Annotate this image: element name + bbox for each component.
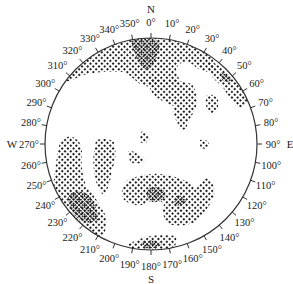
azimuth-tick bbox=[47, 180, 52, 182]
azimuth-label: 180° bbox=[141, 261, 161, 272]
density-region-center-spot-2 bbox=[128, 150, 146, 164]
azimuth-label: 10° bbox=[165, 18, 180, 29]
azimuth-label: 80° bbox=[264, 117, 279, 128]
azimuth-tick bbox=[251, 106, 256, 108]
azimuth-tick bbox=[42, 125, 47, 126]
azimuth-tick bbox=[80, 225, 83, 229]
azimuth-label: 70° bbox=[258, 97, 273, 108]
azimuth-label: 350° bbox=[120, 18, 140, 29]
azimuth-label: 250° bbox=[26, 180, 46, 191]
cardinal-s: S bbox=[148, 273, 154, 284]
azimuth-label: 40° bbox=[222, 45, 237, 56]
azimuth-tick bbox=[113, 244, 115, 249]
density-region-east-spot bbox=[200, 140, 210, 149]
azimuth-tick bbox=[66, 73, 70, 76]
azimuth-tick bbox=[55, 197, 59, 200]
azimuth-tick bbox=[55, 89, 59, 92]
azimuth-label: 160° bbox=[183, 253, 203, 264]
azimuth-label: 320° bbox=[63, 45, 83, 56]
azimuth-tick bbox=[96, 236, 99, 240]
azimuth-label: 120° bbox=[247, 200, 267, 211]
azimuth-label: 210° bbox=[80, 244, 100, 255]
azimuth-tick bbox=[255, 162, 260, 163]
azimuth-tick bbox=[169, 248, 170, 253]
density-region-central-lobe bbox=[149, 76, 198, 130]
azimuth-label: 140° bbox=[219, 232, 239, 243]
azimuth-tick bbox=[132, 35, 133, 40]
density-region-center-spot-1 bbox=[140, 132, 150, 144]
azimuth-tick bbox=[47, 106, 52, 108]
azimuth-tick bbox=[66, 212, 70, 215]
azimuth-label: 240° bbox=[35, 200, 55, 211]
cardinal-w: W bbox=[7, 138, 18, 150]
azimuth-label: 200° bbox=[99, 253, 119, 264]
azimuth-label: 230° bbox=[48, 217, 68, 228]
azimuth-label: 60° bbox=[249, 78, 264, 89]
cardinal-e: E bbox=[287, 138, 293, 150]
azimuth-label: 130° bbox=[234, 217, 254, 228]
density-regions bbox=[52, 35, 248, 252]
azimuth-tick bbox=[42, 162, 47, 163]
azimuth-tick bbox=[219, 225, 222, 229]
azimuth-label: 290° bbox=[26, 97, 46, 108]
azimuth-label: 220° bbox=[63, 232, 83, 243]
azimuth-label: 260° bbox=[21, 160, 41, 171]
density-region-south-central bbox=[122, 174, 215, 226]
azimuth-tick bbox=[232, 212, 236, 215]
azimuth-label: 20° bbox=[185, 24, 200, 35]
azimuth-tick bbox=[251, 180, 256, 182]
density-region-ne-patch bbox=[206, 95, 219, 114]
azimuth-label: 170° bbox=[162, 259, 182, 270]
azimuth-tick bbox=[187, 40, 189, 45]
azimuth-label: 300° bbox=[35, 78, 55, 89]
azimuth-tick bbox=[80, 59, 83, 63]
azimuth-tick bbox=[132, 248, 133, 253]
azimuth-tick bbox=[255, 125, 260, 126]
azimuth-label: 50° bbox=[237, 60, 252, 71]
azimuth-label: 330° bbox=[80, 33, 100, 44]
azimuth-label: 190° bbox=[120, 259, 140, 270]
azimuth-tick bbox=[219, 59, 222, 63]
azimuth-tick bbox=[113, 40, 115, 45]
azimuth-tick bbox=[96, 48, 99, 52]
azimuth-label: 30° bbox=[205, 33, 220, 44]
azimuth-tick bbox=[187, 244, 189, 249]
azimuth-label: 310° bbox=[48, 60, 68, 71]
density-region-midwest-column bbox=[93, 138, 115, 196]
azimuth-label: 280° bbox=[21, 117, 41, 128]
stereonet-diagram: 0°10°20°30°40°50°60°70°80°90°100°110°120… bbox=[0, 0, 293, 284]
cardinal-n: N bbox=[147, 3, 155, 15]
azimuth-tick bbox=[204, 48, 207, 52]
azimuth-label: 100° bbox=[261, 160, 281, 171]
azimuth-label: 110° bbox=[256, 180, 276, 191]
azimuth-tick bbox=[204, 236, 207, 240]
azimuth-label: 150° bbox=[202, 244, 222, 255]
azimuth-label: 340° bbox=[99, 24, 119, 35]
azimuth-tick bbox=[232, 73, 236, 76]
azimuth-label: 270° bbox=[19, 139, 39, 150]
azimuth-tick bbox=[169, 35, 170, 40]
azimuth-tick bbox=[243, 89, 247, 92]
azimuth-label: 90° bbox=[266, 139, 281, 150]
azimuth-label: 0° bbox=[146, 17, 155, 28]
